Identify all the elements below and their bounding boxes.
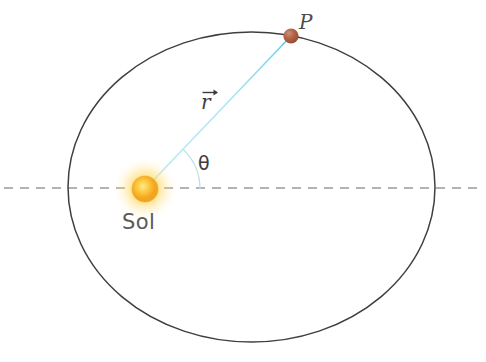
radius-vector-label: r — [200, 86, 226, 112]
vector-arrow-icon — [200, 86, 226, 112]
point-p-label: P — [299, 12, 312, 32]
orbit-diagram-canvas: Sol P θ r — [0, 0, 486, 362]
diagram-vector-layer — [0, 0, 486, 362]
theta-angle-label: θ — [198, 154, 210, 173]
sun-label: Sol — [122, 212, 155, 233]
planet-point-p — [283, 28, 298, 43]
